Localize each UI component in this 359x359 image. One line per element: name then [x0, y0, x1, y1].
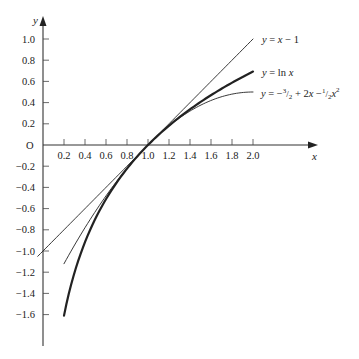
x-tick-label: 1.4: [183, 150, 197, 161]
y-tick-label: −0.6: [16, 203, 35, 214]
axes: [40, 16, 319, 346]
curves: [38, 39, 253, 316]
y-tick-label: −1.4: [16, 288, 36, 299]
labels: yxO0.20.40.60.81.01.21.41.61.82.01.00.80…: [16, 14, 340, 320]
origin-label: O: [26, 140, 34, 151]
y-axis-label: y: [32, 14, 38, 26]
x-tick-label: 0.8: [120, 150, 133, 161]
y-tick-label: 0.2: [22, 118, 35, 129]
x-axis-arrow-icon: [308, 142, 318, 149]
label-quadratic: y = −3/2 + 2x −1/2x2: [260, 86, 340, 101]
y-tick-label: −1.6: [16, 309, 35, 320]
y-tick-label: 1.0: [22, 34, 35, 45]
y-tick-label: −1.2: [16, 267, 35, 278]
y-tick-label: −0.4: [16, 182, 36, 193]
x-tick-label: 1.8: [225, 150, 238, 161]
function-comparison-chart: yxO0.20.40.60.81.01.21.41.61.82.01.00.80…: [0, 0, 359, 359]
y-axis-arrow-icon: [40, 16, 47, 26]
y-tick-label: 0.8: [22, 55, 35, 66]
x-tick-label: 2.0: [246, 150, 259, 161]
curve-quadratic: [64, 92, 253, 264]
y-tick-label: −1.0: [16, 246, 35, 257]
label-y-equals-x-minus-1: y = x − 1: [261, 34, 299, 45]
curve-ln-x: [64, 72, 253, 316]
x-tick-label: 1.0: [141, 150, 154, 161]
label-y-equals-ln-x: y = ln x: [261, 67, 294, 78]
x-tick-label: 1.6: [204, 150, 217, 161]
x-axis-label: x: [311, 150, 317, 162]
y-tick-label: 0.4: [22, 97, 36, 108]
x-tick-label: 0.4: [78, 150, 92, 161]
y-tick-label: −0.2: [16, 161, 35, 172]
x-tick-label: 1.2: [162, 150, 175, 161]
y-tick-label: −0.8: [16, 224, 35, 235]
x-tick-label: 0.6: [99, 150, 112, 161]
x-tick-label: 0.2: [57, 150, 70, 161]
y-tick-label: 0.6: [22, 76, 35, 87]
